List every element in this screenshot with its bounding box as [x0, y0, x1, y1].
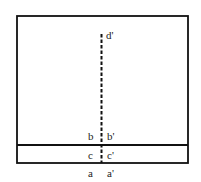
label-b: b — [88, 130, 94, 142]
label-b-prime: b' — [107, 130, 115, 142]
diagram-canvas: d' b b' c c' a a' — [0, 0, 201, 182]
label-a-prime: a' — [107, 167, 114, 179]
label-c-prime: c' — [107, 149, 114, 161]
label-d-prime: d' — [106, 29, 114, 41]
label-a: a — [88, 167, 93, 179]
label-c: c — [88, 149, 93, 161]
